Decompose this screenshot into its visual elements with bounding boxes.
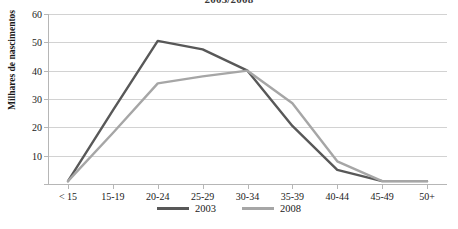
legend-swatch-2008 [242, 207, 274, 210]
y-axis-tick [44, 127, 49, 128]
x-axis-tick [292, 184, 293, 189]
y-axis-tick-label: 30 [0, 94, 42, 105]
y-axis-tick-label: 60 [0, 9, 42, 20]
x-axis-tick-label: 50+ [397, 191, 457, 202]
x-axis-tick [113, 184, 114, 189]
y-axis-tick-label: 50 [0, 37, 42, 48]
gridline [48, 42, 447, 43]
y-axis-tick [44, 71, 49, 72]
x-axis-tick [337, 184, 338, 189]
legend-label-2003: 2003 [195, 203, 216, 214]
gridline [48, 14, 447, 15]
y-axis-tick-label: 10 [0, 150, 42, 161]
chart-title: 2003/2008 [0, 0, 458, 5]
y-axis-tick [44, 14, 49, 15]
y-axis-tick [44, 156, 49, 157]
chart-legend: 20032008 [0, 203, 458, 214]
y-axis-labels: 102030405060 [0, 0, 42, 229]
gridline [48, 127, 447, 128]
y-axis-tick-label: 40 [0, 65, 42, 76]
y-axis-tick [44, 184, 49, 185]
x-axis-tick [203, 184, 204, 189]
x-axis-tick [68, 184, 69, 189]
legend-item-2008[interactable]: 2008 [242, 203, 301, 214]
x-axis-tick [248, 184, 249, 189]
gridline [48, 71, 447, 72]
chart-container: 2003/2008 Milhares de nascimentos 102030… [0, 0, 458, 229]
gridline [48, 99, 447, 100]
y-axis-tick [44, 99, 49, 100]
x-axis-tick [427, 184, 428, 189]
x-axis-tick [382, 184, 383, 189]
gridline [48, 156, 447, 157]
y-axis-tick-label: 20 [0, 122, 42, 133]
legend-item-2003[interactable]: 2003 [157, 203, 216, 214]
legend-swatch-2003 [157, 207, 189, 210]
x-axis-tick [158, 184, 159, 189]
y-axis-tick [44, 42, 49, 43]
plot-area [48, 14, 447, 184]
legend-label-2008: 2008 [280, 203, 301, 214]
